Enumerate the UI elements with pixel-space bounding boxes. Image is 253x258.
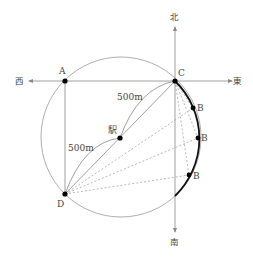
label-north: 北 <box>170 12 179 22</box>
point-station <box>117 135 122 140</box>
point-B1 <box>191 106 196 111</box>
label-south: 南 <box>170 237 179 247</box>
north-arrow-icon <box>173 26 177 31</box>
label-east: 東 <box>233 76 242 86</box>
label-B3: B <box>193 171 200 181</box>
south-arrow-icon <box>173 228 177 233</box>
label-west: 西 <box>15 76 24 86</box>
label-B2: B <box>201 133 208 143</box>
point-D <box>62 191 67 196</box>
label-A: A <box>58 66 66 76</box>
point-A <box>62 78 67 83</box>
label-C: C <box>178 68 185 78</box>
label-D: D <box>57 199 64 209</box>
label-B1: B <box>197 103 204 113</box>
label-distance-D-station: 500m <box>68 143 94 153</box>
dash-D-B3 <box>65 175 189 194</box>
point-C <box>172 78 177 83</box>
point-B2 <box>196 136 201 141</box>
geometry-diagram: 北 南 西 東 A C D B B B 駅 500m 500m <box>0 0 253 258</box>
west-arrow-icon <box>28 79 33 83</box>
label-station: 駅 <box>108 125 117 135</box>
label-distance-station-C: 500m <box>117 92 143 102</box>
point-B3 <box>187 173 192 178</box>
